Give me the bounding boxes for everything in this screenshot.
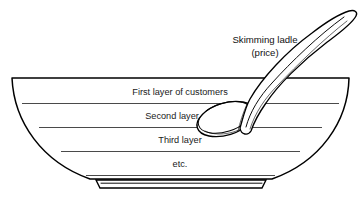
layer-label-2: Second layer	[145, 111, 199, 121]
figure-container: Skimming ladle (price) First layer of cu…	[0, 0, 361, 208]
layer-label-4: etc.	[173, 159, 188, 169]
bowl-foot	[96, 180, 266, 188]
callout-line-1: Skimming ladle	[232, 34, 297, 45]
skimming-diagram: Skimming ladle (price) First layer of cu…	[0, 0, 361, 208]
layer-label-3: Third layer	[158, 135, 201, 145]
layer-label-1: First layer of customers	[132, 87, 228, 97]
callout-line-2: (price)	[251, 47, 278, 58]
